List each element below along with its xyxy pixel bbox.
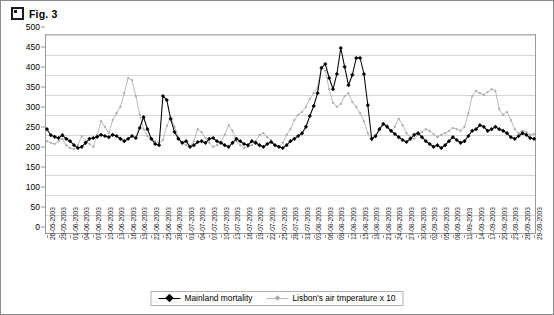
legend-swatch-temperature xyxy=(266,294,288,303)
legend-label-temperature: Lisbon's air tmperature x 10 xyxy=(292,294,395,303)
x-axis-tick-mark xyxy=(418,235,419,238)
y-axis-tick-mark xyxy=(41,27,45,28)
data-point-marker xyxy=(467,112,470,115)
x-axis-tick-label: 22-06-2003 xyxy=(154,207,161,240)
x-axis-tick-label: 07-06-2003 xyxy=(96,207,103,240)
x-axis-tick-label: 29-09-2003 xyxy=(537,207,544,240)
data-point-marker xyxy=(91,136,95,140)
x-axis-tick-mark xyxy=(186,235,187,238)
x-axis-tick-mark xyxy=(70,235,71,238)
x-axis-tick-mark xyxy=(47,235,48,238)
legend-label-mortality: Mainland mortality xyxy=(184,294,252,303)
data-point-marker xyxy=(315,91,319,95)
y-axis-tick-label: 50 xyxy=(31,203,40,212)
x-axis-tick-label: 09-08-2003 xyxy=(339,207,346,240)
data-point-marker xyxy=(494,89,497,92)
x-axis-tick-label: 14-09-2003 xyxy=(479,207,486,240)
data-point-marker xyxy=(138,113,141,116)
x-axis-tick-label: 21-08-2003 xyxy=(386,207,393,240)
y-axis-tick-label: 450 xyxy=(26,43,40,52)
y-axis: 050100150200250300350400450500 xyxy=(1,27,45,241)
y-axis-tick-label: 500 xyxy=(26,23,40,32)
data-point-marker xyxy=(103,134,107,138)
data-point-marker xyxy=(131,79,134,82)
x-axis-tick-mark xyxy=(279,235,280,238)
x-axis-tick-label: 10-07-2003 xyxy=(224,207,231,240)
y-axis-tick-label: 250 xyxy=(26,123,40,132)
data-point-marker xyxy=(346,83,350,87)
x-axis-tick-label: 10-06-2003 xyxy=(108,207,115,240)
figure-container: Fig. 3 050100150200250300350400450500 26… xyxy=(0,0,554,315)
x-axis-tick-label: 13-07-2003 xyxy=(235,207,242,240)
data-point-marker xyxy=(141,115,145,119)
page-title: Fig. 3 xyxy=(29,8,58,20)
x-axis-tick-label: 16-07-2003 xyxy=(247,207,254,240)
x-axis-tick-label: 30-08-2003 xyxy=(421,207,428,240)
data-point-marker xyxy=(46,140,49,143)
y-axis-tick-label: 150 xyxy=(26,163,40,172)
x-axis-tick-label: 20-09-2003 xyxy=(502,207,509,240)
data-point-marker xyxy=(145,127,149,131)
x-axis-tick-mark xyxy=(105,235,106,238)
data-point-marker xyxy=(532,137,536,141)
x-axis-tick-label: 07-07-2003 xyxy=(212,207,219,240)
x-axis-tick-label: 05-09-2003 xyxy=(444,207,451,240)
x-axis-tick-label: 08-09-2003 xyxy=(455,207,462,240)
square-bullet-icon xyxy=(11,7,24,20)
legend-item-mainland-mortality: Mainland mortality xyxy=(158,294,252,303)
y-axis-tick-label: 400 xyxy=(26,63,40,72)
x-axis-tick-label: 31-07-2003 xyxy=(305,207,312,240)
data-point-marker xyxy=(312,104,316,108)
chart-legend: Mainland mortality Lisbon's air tmperatu… xyxy=(150,291,403,306)
data-point-marker xyxy=(335,72,339,76)
data-point-marker xyxy=(327,76,331,80)
x-axis-tick-label: 17-09-2003 xyxy=(490,207,497,240)
chart-canvas xyxy=(45,34,536,234)
data-point-marker xyxy=(99,133,103,137)
data-point-marker xyxy=(157,143,161,147)
x-axis-tick-label: 22-07-2003 xyxy=(270,207,277,240)
x-axis-tick-mark xyxy=(163,235,164,238)
x-axis-tick-label: 19-07-2003 xyxy=(258,207,265,240)
y-axis-tick-label: 350 xyxy=(26,83,40,92)
x-axis-tick-label: 01-06-2003 xyxy=(73,207,80,240)
x-axis-tick-label: 04-07-2003 xyxy=(200,207,207,240)
legend-swatch-mortality xyxy=(158,294,180,303)
x-axis-tick-label: 02-09-2003 xyxy=(432,207,439,240)
y-axis-tick-label: 300 xyxy=(26,103,40,112)
x-axis-tick-label: 15-08-2003 xyxy=(363,207,370,240)
figure-title-bar: Fig. 3 xyxy=(11,7,58,20)
x-axis-tick-label: 28-07-2003 xyxy=(293,207,300,240)
x-axis-tick-mark xyxy=(534,235,535,238)
x-axis-tick-label: 16-06-2003 xyxy=(131,207,138,240)
x-axis-tick-label: 11-09-2003 xyxy=(467,208,474,240)
data-point-marker xyxy=(199,139,203,143)
x-axis-tick-label: 29-05-2003 xyxy=(61,207,68,240)
data-point-marker xyxy=(339,46,343,50)
data-point-marker xyxy=(358,56,362,60)
data-point-marker xyxy=(350,73,354,77)
data-point-marker xyxy=(363,120,366,123)
x-axis-tick-label: 24-08-2003 xyxy=(397,207,404,240)
y-axis-tick-label: 100 xyxy=(26,183,40,192)
data-point-marker xyxy=(366,103,370,107)
data-point-marker xyxy=(343,65,347,69)
data-point-marker xyxy=(138,126,142,130)
data-point-marker xyxy=(510,119,513,122)
x-axis-tick-label: 13-06-2003 xyxy=(119,207,126,240)
x-axis-tick-label: 26-05-2003 xyxy=(50,207,57,240)
legend-item-lisbon-temperature: Lisbon's air tmperature x 10 xyxy=(266,294,395,303)
x-axis-tick-label: 23-09-2003 xyxy=(513,207,520,240)
x-axis-tick-label: 25-07-2003 xyxy=(282,207,289,240)
plot-wrapper xyxy=(45,34,536,234)
y-axis-tick-label: 200 xyxy=(26,143,40,152)
data-point-marker xyxy=(165,125,168,128)
data-point-marker xyxy=(533,133,536,136)
x-axis-tick-label: 06-08-2003 xyxy=(328,207,335,240)
x-axis-tick-label: 03-08-2003 xyxy=(316,207,323,240)
data-point-marker xyxy=(53,135,57,139)
x-axis-tick-label: 12-08-2003 xyxy=(351,207,358,240)
data-point-marker xyxy=(49,141,52,144)
x-axis-tick-mark xyxy=(476,235,477,238)
data-point-marker xyxy=(134,136,138,140)
